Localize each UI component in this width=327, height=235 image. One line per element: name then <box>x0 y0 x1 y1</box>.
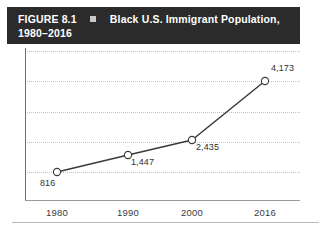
x-tick-label-1980: 1980 <box>37 207 77 218</box>
chart-line-svg <box>0 0 327 235</box>
data-point-marker <box>261 77 268 84</box>
data-point-value-label: 1,447 <box>131 157 154 167</box>
data-point-value-label: 2,435 <box>196 142 219 152</box>
data-point-value-label: 4,173 <box>271 63 294 73</box>
bottom-divider <box>12 222 319 223</box>
figure-container: FIGURE 8.1 Black U.S. Immigrant Populati… <box>0 0 327 235</box>
x-tick-label-2016: 2016 <box>245 207 285 218</box>
data-line <box>57 81 265 172</box>
data-point-value-label: 816 <box>40 178 55 188</box>
x-tick-label-1990: 1990 <box>108 207 148 218</box>
data-point-marker <box>53 168 60 175</box>
data-point-marker <box>188 136 195 143</box>
x-tick-label-2000: 2000 <box>172 207 212 218</box>
